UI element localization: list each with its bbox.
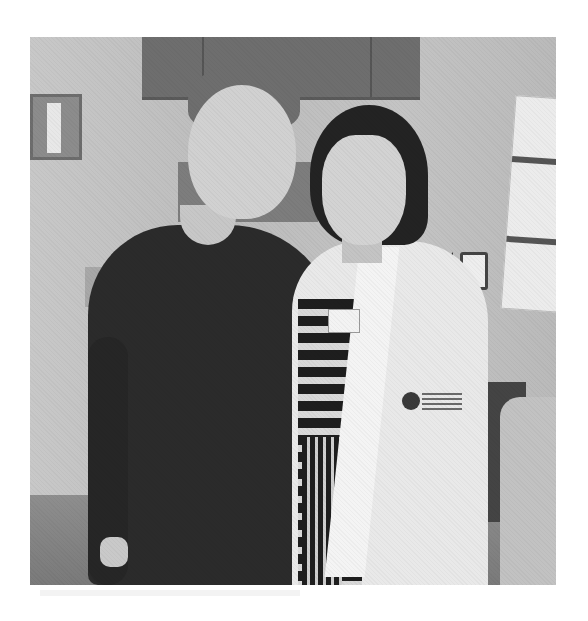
exam-chair: [500, 397, 556, 585]
coat-logo-icon: [402, 392, 420, 410]
cabinet-door-divider: [370, 37, 372, 97]
coat-logo-text: [422, 393, 462, 411]
person-left-face: [188, 85, 296, 219]
dispenser-window: [47, 103, 61, 153]
wall-dispenser: [30, 94, 82, 160]
photograph: [30, 37, 556, 585]
calendar-month-band: [506, 236, 556, 246]
person-left-hand: [100, 537, 128, 567]
name-badge: [328, 309, 360, 333]
person-right-face: [322, 135, 406, 245]
faint-caption: [40, 590, 300, 596]
calendar-month-band: [512, 156, 556, 166]
